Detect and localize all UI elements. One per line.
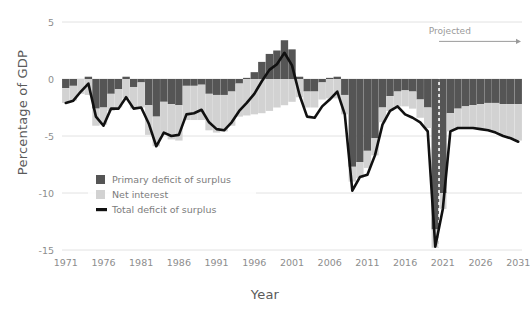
deficit-chart-svg: 50-5-10-15 19711976198119861991199620012…	[0, 0, 530, 315]
svg-text:1971: 1971	[54, 257, 78, 268]
svg-text:Projected: Projected	[429, 26, 471, 36]
svg-text:-15: -15	[38, 245, 54, 256]
svg-text:-5: -5	[45, 131, 54, 142]
svg-text:2011: 2011	[355, 257, 379, 268]
svg-text:1981: 1981	[129, 257, 153, 268]
y-axis-label: Percentage of GDP	[15, 33, 30, 193]
x-axis-ticks: 1971197619811986199119962001200620112016…	[54, 257, 530, 268]
svg-text:1986: 1986	[167, 257, 191, 268]
svg-text:2031: 2031	[506, 257, 530, 268]
svg-text:1996: 1996	[242, 257, 266, 268]
chart-figure: 50-5-10-15 19711976198119861991199620012…	[0, 0, 530, 315]
svg-text:Total deficit of surplus: Total deficit of surplus	[111, 204, 216, 215]
svg-text:0: 0	[48, 74, 54, 85]
svg-text:2006: 2006	[318, 257, 342, 268]
svg-text:2021: 2021	[431, 257, 455, 268]
svg-text:2026: 2026	[468, 257, 492, 268]
svg-text:-10: -10	[38, 188, 54, 199]
svg-text:Net interest: Net interest	[112, 189, 168, 200]
projected-annotation: Projected	[429, 26, 521, 44]
x-axis-label: Year	[0, 287, 530, 302]
chart-legend: Primary deficit of surplusNet interestTo…	[88, 168, 256, 220]
svg-text:1991: 1991	[204, 257, 228, 268]
svg-text:1976: 1976	[91, 257, 115, 268]
svg-text:2016: 2016	[393, 257, 417, 268]
svg-text:5: 5	[48, 17, 54, 28]
svg-text:Primary deficit of surplus: Primary deficit of surplus	[112, 174, 231, 185]
svg-text:2001: 2001	[280, 257, 304, 268]
y-axis-ticks: 50-5-10-15	[38, 17, 54, 256]
